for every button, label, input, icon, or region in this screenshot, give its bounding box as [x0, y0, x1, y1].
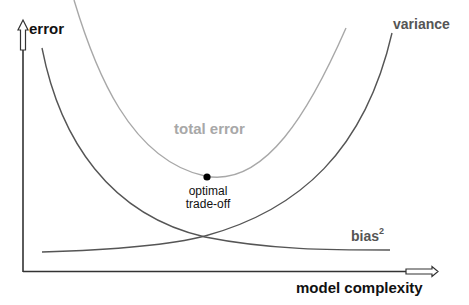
variance-curve: [42, 33, 392, 252]
y-axis-arrow-icon: [18, 20, 28, 50]
y-axis-label: error: [29, 20, 64, 37]
bias-variance-diagram: [0, 0, 469, 305]
optimal-tradeoff-label: optimal trade-off: [180, 185, 236, 211]
total-error-label: total error: [174, 120, 245, 137]
bias-squared-label: bias2: [351, 228, 384, 244]
y-axis: [18, 20, 28, 272]
total-error-curve: [74, 0, 346, 177]
optimal-point-marker: [203, 173, 210, 180]
x-axis: [23, 267, 438, 277]
bias-squared-curve: [42, 48, 390, 250]
optimal-tradeoff-label-line2: trade-off: [180, 198, 236, 211]
bias-squared-label-exponent: 2: [379, 226, 384, 236]
x-axis-arrow-icon: [406, 267, 438, 277]
bias-squared-label-base: bias: [351, 228, 379, 244]
variance-label: variance: [393, 16, 450, 32]
x-axis-label: model complexity: [296, 279, 423, 296]
